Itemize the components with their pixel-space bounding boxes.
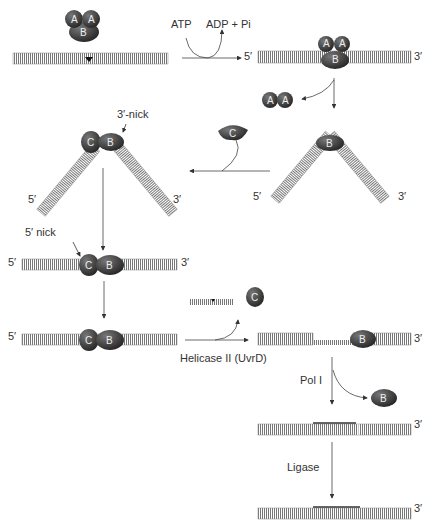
- step3-bent-dna: B 5′ 3′: [253, 131, 406, 203]
- label-3-nick: 3′-nick: [117, 108, 149, 120]
- pol-arrow: B Pol I: [300, 357, 397, 407]
- step1-dna: [13, 53, 168, 64]
- svg-text:C: C: [251, 292, 258, 303]
- step2-dna: 5′ 3′ A A B: [244, 36, 422, 69]
- step4-bent-dna: C B 3′-nick 5′ 3′: [28, 108, 181, 216]
- svg-text:5′: 5′: [28, 193, 36, 205]
- svg-text:5′: 5′: [244, 50, 252, 62]
- svg-text:B: B: [107, 137, 114, 148]
- svg-text:C: C: [85, 260, 92, 271]
- step7-dna: 3′ B: [258, 330, 422, 348]
- step5-dna: 5′ 3′ C B 5′ nick: [8, 226, 189, 276]
- svg-text:3′: 3′: [173, 193, 181, 205]
- release-a-arrow: A A: [262, 78, 334, 108]
- svg-text:A: A: [323, 38, 330, 49]
- label-a: A: [71, 14, 78, 25]
- svg-text:3′: 3′: [398, 190, 406, 202]
- svg-text:3′: 3′: [181, 256, 189, 268]
- helicase-arrow: C Helicase II (UvrD): [180, 287, 267, 364]
- svg-text:A: A: [339, 38, 346, 49]
- svg-text:B: B: [359, 334, 366, 345]
- svg-text:B: B: [106, 260, 113, 271]
- svg-text:A: A: [267, 95, 274, 106]
- svg-text:C: C: [229, 128, 236, 139]
- svg-text:B: B: [332, 54, 339, 65]
- step6-dna: 5′ C B: [8, 329, 177, 351]
- protein-aab-free: A A B: [65, 10, 100, 42]
- label-atp: ATP: [171, 18, 192, 30]
- step9-dna: 3′: [258, 502, 422, 519]
- label-5-nick: 5′ nick: [25, 226, 56, 238]
- svg-text:5′: 5′: [8, 256, 16, 268]
- label-pol: Pol I: [300, 374, 322, 386]
- svg-text:B: B: [106, 335, 113, 346]
- svg-text:3′: 3′: [414, 502, 422, 514]
- svg-text:A: A: [88, 14, 95, 25]
- svg-text:3′: 3′: [414, 332, 422, 344]
- step8-dna: 3′: [258, 418, 422, 435]
- svg-text:5′: 5′: [8, 330, 16, 342]
- c-binding-arrow: C: [190, 125, 270, 171]
- label-adp: ADP + Pi: [206, 18, 251, 30]
- svg-text:C: C: [85, 335, 92, 346]
- svg-text:B: B: [80, 27, 87, 38]
- svg-text:B: B: [326, 138, 333, 149]
- svg-text:3′: 3′: [414, 418, 422, 430]
- svg-text:B: B: [380, 393, 387, 404]
- svg-text:A: A: [282, 95, 289, 106]
- label-ligase: Ligase: [287, 461, 319, 473]
- svg-text:C: C: [87, 137, 94, 148]
- atp-arrow: ATP ADP + Pi: [171, 18, 251, 58]
- svg-text:3′: 3′: [414, 50, 422, 62]
- svg-text:5′: 5′: [253, 190, 261, 202]
- label-helicase: Helicase II (UvrD): [180, 352, 267, 364]
- ligase-arrow: Ligase: [287, 442, 332, 498]
